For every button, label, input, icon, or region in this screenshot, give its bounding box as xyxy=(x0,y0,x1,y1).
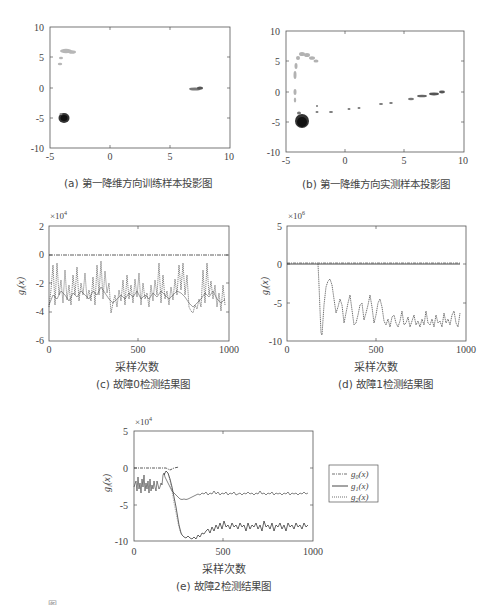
series-g0 xyxy=(134,467,179,470)
x-tick: 1000 xyxy=(219,344,239,355)
x-tick: 10 xyxy=(458,155,468,166)
chart-e-caption: (e) 故障2检测结果图 xyxy=(176,578,271,593)
y-tick: -10 xyxy=(31,143,44,154)
y-axis-label: gi(x) xyxy=(101,473,114,492)
chart-d: ×106 5 0 -5 -10 0 500 1000 gi(x) 采样次数 (d… xyxy=(246,195,492,395)
chart-c-caption: (c) 故障0检测结果图 xyxy=(96,376,190,391)
chart-e: ×104 5 0 -5 -10 0 500 1000 gi(x) g0(x) g… xyxy=(80,395,410,600)
x-tick: 0 xyxy=(108,151,113,162)
series-oscillating xyxy=(49,261,225,313)
chart-d-xlabel: 采样次数 xyxy=(354,358,398,374)
y-tick: 0 xyxy=(39,83,44,94)
x-tick: 5 xyxy=(402,155,407,166)
legend-label-g1: g1(x) xyxy=(351,481,369,492)
y-tick: -10 xyxy=(269,336,282,347)
y-tick: -5 xyxy=(274,298,282,309)
arc-upper-left xyxy=(294,52,319,103)
x-tick: 5 xyxy=(168,151,173,162)
series-g-drop xyxy=(318,264,460,335)
y-tick: -10 xyxy=(267,147,280,158)
x-tick: -5 xyxy=(46,151,54,162)
legend-label-g0: g0(x) xyxy=(351,469,369,480)
y-tick: -5 xyxy=(272,117,280,128)
y-tick: 0 xyxy=(275,87,280,98)
chart-a-plot: 10 5 0 -5 -10 -5 0 5 10 xyxy=(0,0,246,195)
chart-b-caption: (b) 第一降维方向实测样本投影图 xyxy=(302,176,450,191)
y-tick: 10 xyxy=(270,26,280,37)
y-tick: -4 xyxy=(36,306,44,317)
y-tick: -2 xyxy=(36,278,44,289)
x-tick: -5 xyxy=(282,155,290,166)
legend: g0(x) g1(x) g2(x) xyxy=(329,465,378,503)
legend-label-g2: g2(x) xyxy=(351,492,369,503)
x-tick: 500 xyxy=(369,344,384,355)
y-tick: -6 xyxy=(36,335,44,346)
x-tick: 10 xyxy=(224,151,234,162)
cluster-lower-left xyxy=(295,112,309,129)
y-tick: 0 xyxy=(39,249,44,260)
cluster-upper-left xyxy=(58,49,76,65)
chart-b: 10 5 0 -5 -10 -5 0 5 10 xyxy=(246,0,492,195)
chart-e-xlabel: 采样次数 xyxy=(202,560,246,576)
x-tick: 0 xyxy=(285,344,290,355)
y-tick: 0 xyxy=(123,463,128,474)
y-axis-label: gi(x) xyxy=(15,276,28,295)
x-tick: 0 xyxy=(47,344,52,355)
y-multiplier: ×104 xyxy=(50,210,67,221)
chart-c-xlabel: 采样次数 xyxy=(115,358,159,374)
chart-a-caption: (a) 第一降维方向训练样本投影图 xyxy=(64,175,212,190)
y-tick: -5 xyxy=(36,113,44,124)
series-g2 xyxy=(164,471,308,539)
y-tick: 5 xyxy=(39,52,44,63)
y-tick: 2 xyxy=(39,221,44,232)
chart-b-plot: 10 5 0 -5 -10 -5 0 5 10 xyxy=(246,0,492,195)
x-tick: 1000 xyxy=(456,344,476,355)
y-tick: 0 xyxy=(277,259,282,270)
y-multiplier: ×106 xyxy=(288,210,305,221)
figure-footer-cutoff: 图 xyxy=(48,598,57,605)
cluster-lower-left xyxy=(59,113,70,123)
series-g1 xyxy=(134,473,308,500)
x-tick: 0 xyxy=(343,155,348,166)
y-axis-label: gi(x) xyxy=(259,276,272,295)
cluster-right xyxy=(189,86,203,90)
y-tick: 5 xyxy=(275,56,280,67)
chart-c: ×104 2 0 -2 -4 -6 0 500 1000 gi(x) 采样次数 … xyxy=(0,195,246,395)
x-tick: 500 xyxy=(216,546,231,557)
y-tick: 5 xyxy=(277,221,282,232)
y-tick: -5 xyxy=(120,500,128,511)
x-tick: 0 xyxy=(132,546,137,557)
y-tick: 5 xyxy=(123,426,128,437)
y-tick: 10 xyxy=(34,22,44,33)
x-tick: 1000 xyxy=(303,546,323,557)
chart-d-caption: (d) 故障1检测结果图 xyxy=(338,376,433,391)
chart-a: 10 5 0 -5 -10 -5 0 5 10 (a) 第一降维方向训练样本投影… xyxy=(0,0,246,195)
x-tick: 500 xyxy=(131,344,146,355)
trail-to-right xyxy=(316,91,446,113)
y-tick: -10 xyxy=(115,536,128,547)
y-multiplier: ×104 xyxy=(135,416,152,427)
